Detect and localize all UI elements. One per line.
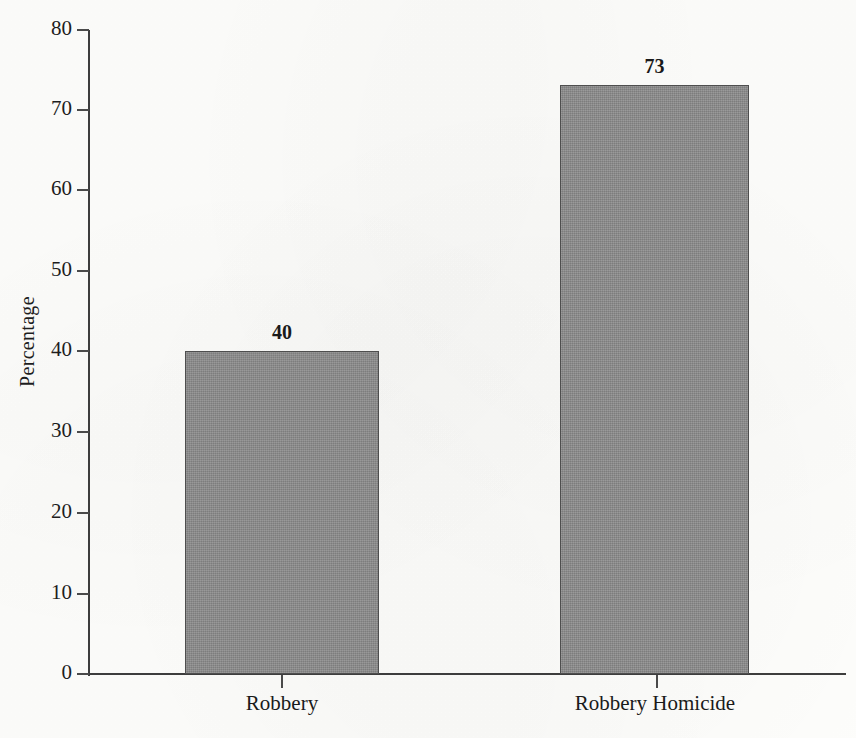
y-axis-line <box>88 30 90 676</box>
y-tick-40 <box>77 350 89 352</box>
y-tick-label-30: 30 <box>30 420 72 441</box>
bar-robbery[interactable] <box>185 351 379 674</box>
y-tick-label-40: 40 <box>30 339 72 360</box>
x-tick-robbery-homicide <box>656 675 658 688</box>
y-tick-20 <box>77 512 89 514</box>
y-tick-label-20: 20 <box>30 501 72 522</box>
y-tick-label-70: 70 <box>30 98 72 119</box>
y-tick-10 <box>77 593 89 595</box>
x-tick-robbery <box>281 675 283 688</box>
y-tick-label-10: 10 <box>30 582 72 603</box>
y-tick-label-0: 0 <box>30 662 72 683</box>
y-tick-label-50: 50 <box>30 259 72 280</box>
y-tick-60 <box>77 189 89 191</box>
x-axis-label-robbery-homicide: Robbery Homicide <box>540 692 770 715</box>
x-axis-label-robbery: Robbery <box>182 692 382 715</box>
y-tick-80 <box>77 29 89 31</box>
bar-robbery-homicide[interactable] <box>560 85 749 674</box>
y-tick-label-80: 80 <box>30 18 72 39</box>
y-tick-30 <box>77 431 89 433</box>
bar-chart: Percentage 80 70 60 50 40 30 20 10 0 40 … <box>0 0 856 738</box>
y-tick-label-60: 60 <box>30 178 72 199</box>
bar-value-robbery-homicide: 73 <box>560 56 749 76</box>
y-tick-0 <box>77 673 89 675</box>
bar-value-robbery: 40 <box>185 322 379 342</box>
y-tick-50 <box>77 270 89 272</box>
y-tick-70 <box>77 109 89 111</box>
